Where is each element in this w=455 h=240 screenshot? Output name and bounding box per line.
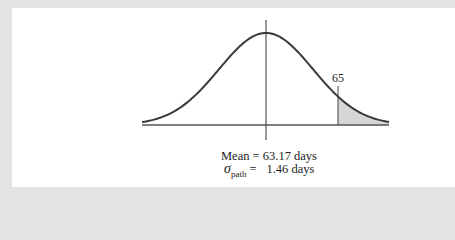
tail-marker-label: 65 <box>332 71 344 86</box>
sigma-value: 1.46 days <box>266 162 314 176</box>
sigma-symbol: σ <box>224 161 231 176</box>
sigma-subscript: path <box>231 169 247 179</box>
sigma-label: σpath=1.46 days <box>224 161 314 177</box>
sigma-equals: = <box>249 162 256 176</box>
